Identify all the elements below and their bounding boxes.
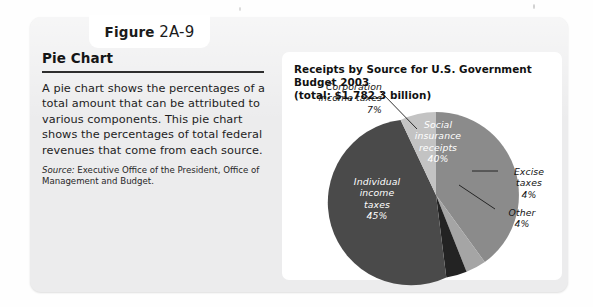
pie-label-corporation-income-taxes: Corporation income taxes 7% <box>286 81 382 115</box>
pie-chart: Social insurance receipts 40% Individual… <box>282 52 562 280</box>
pie-label-line: Corporation <box>286 81 382 92</box>
pie-label-value: 4% <box>497 218 547 229</box>
pie-label-line: income taxes <box>286 92 382 103</box>
section-heading: Pie Chart <box>42 50 280 66</box>
source-label: Source: <box>42 165 75 175</box>
pie-label-line: Excise <box>501 166 557 177</box>
description-text: A pie chart shows the percentages of a t… <box>42 81 268 158</box>
page-speck <box>239 7 241 11</box>
source-text: Executive Office of the President, Offic… <box>42 165 259 186</box>
pie-label-value: 4% <box>501 189 557 200</box>
pie-label-value: 7% <box>286 104 382 115</box>
page-speck <box>533 4 535 9</box>
figure-label-prefix: Figure <box>105 24 155 40</box>
figure-number-tab: Figure 2A-9 <box>89 15 210 48</box>
figure-number: 2A-9 <box>159 23 194 41</box>
chart-panel: Receipts by Source for U.S. Government B… <box>282 52 562 280</box>
pie-label-other: Other 4% <box>497 207 547 230</box>
pie-label-excise-taxes: Excise taxes 4% <box>501 166 557 200</box>
figure-number-label: Figure 2A-9 <box>105 23 195 41</box>
figure-panel: Figure 2A-9 Pie Chart A pie chart shows … <box>30 17 568 292</box>
page-background: Figure 2A-9 Pie Chart A pie chart shows … <box>0 0 593 307</box>
pie-label-line: Other <box>497 207 547 218</box>
heading-divider <box>42 71 264 73</box>
description-column: Pie Chart A pie chart shows the percenta… <box>42 50 280 188</box>
source-note: Source: Executive Office of the Presiden… <box>42 165 264 188</box>
pie-label-line: taxes <box>501 177 557 188</box>
